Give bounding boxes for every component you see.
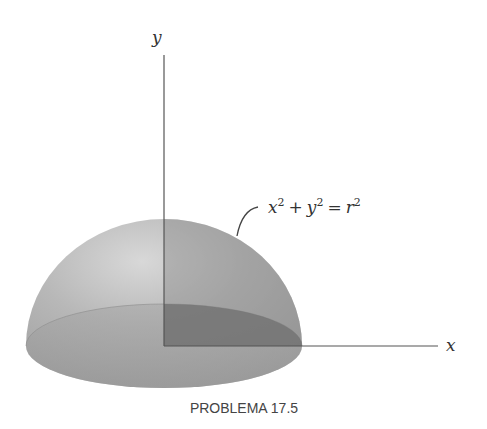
eq-x: x — [268, 197, 278, 217]
eq-y: y — [306, 197, 317, 217]
surface-equation: x2+y2=r2 — [268, 196, 361, 217]
eq-y-exponent: 2 — [316, 196, 323, 209]
svg-text:x2+y2=r2: x2+y2=r2 — [268, 196, 361, 217]
eq-x-exponent: 2 — [278, 196, 285, 209]
figure-caption: PROBLEMA 17.5 — [190, 400, 298, 416]
hemisphere-diagram: y x x2+y2=r2 PROBLEMA 17.5 — [0, 0, 487, 429]
equation-leader-line — [237, 207, 258, 236]
x-axis-label: x — [446, 335, 456, 355]
eq-equals: = — [327, 197, 341, 217]
eq-r-exponent: 2 — [354, 196, 361, 209]
eq-plus: + — [289, 197, 303, 217]
y-axis-label: y — [151, 27, 162, 47]
